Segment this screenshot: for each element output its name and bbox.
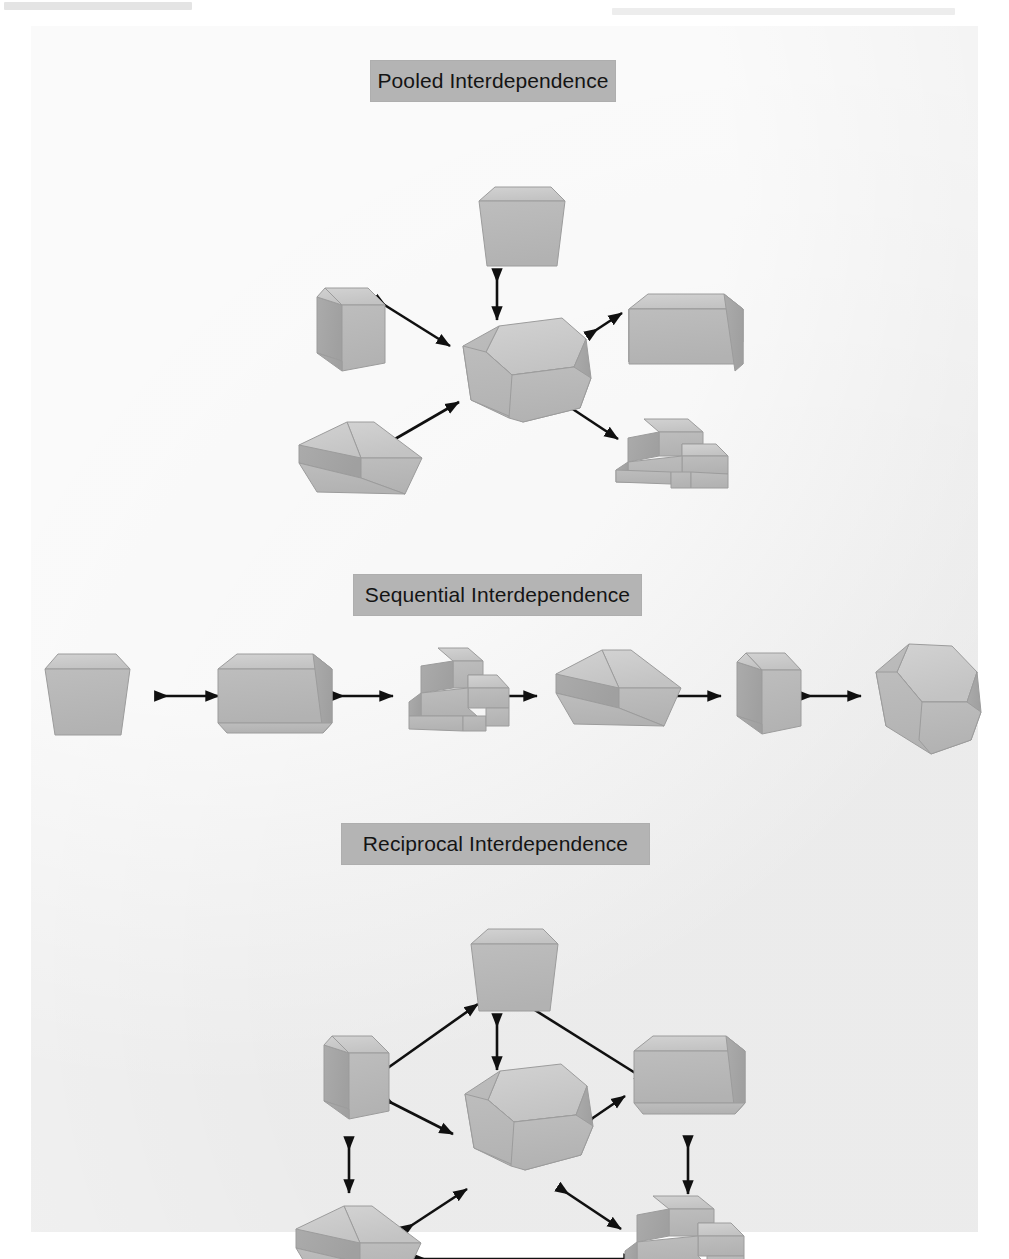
shape-tapered-block[interactable] <box>471 929 558 1011</box>
shape-large-cube[interactable] <box>634 1036 745 1114</box>
shape-chamfered-cube[interactable] <box>324 1036 389 1119</box>
shape-chamfered-cube[interactable] <box>737 653 801 734</box>
arrow-left-to-hub <box>375 299 450 346</box>
shape-hexagonal-prism-hub[interactable] <box>465 1064 593 1170</box>
scanned-page: Pooled Interdependence <box>0 0 1009 1259</box>
shape-wedge-block[interactable] <box>556 650 681 726</box>
arrow-left-to-top <box>375 1004 478 1077</box>
arrow-left-to-hub <box>382 1098 453 1134</box>
shape-stepped-block[interactable] <box>409 648 509 731</box>
shape-large-cube[interactable] <box>629 294 743 371</box>
pooled-diagram-canvas <box>31 26 978 526</box>
bleed-through-heading <box>4 2 192 10</box>
arrow-botleft-to-hub <box>403 1189 467 1231</box>
shape-hexagonal-prism[interactable] <box>876 644 981 754</box>
arrow-botright-to-hub <box>558 1187 621 1229</box>
arrow-right-to-hub <box>587 313 622 336</box>
shape-hexagonal-prism-hub[interactable] <box>463 318 591 422</box>
shape-tapered-block[interactable] <box>479 187 565 266</box>
section-reciprocal-interdependence: Reciprocal Interdependence <box>31 781 978 1232</box>
shape-stepped-block[interactable] <box>616 419 728 488</box>
shape-stepped-block[interactable] <box>625 1196 744 1259</box>
reciprocal-diagram-canvas <box>31 781 978 1232</box>
section-sequential-interdependence: Sequential Interdependence <box>31 526 978 781</box>
shape-large-cube[interactable] <box>218 654 332 733</box>
section-pooled-interdependence: Pooled Interdependence <box>31 26 978 526</box>
shape-tapered-block[interactable] <box>45 654 130 735</box>
figure-panel: Pooled Interdependence <box>31 26 978 1232</box>
shape-chamfered-cube[interactable] <box>317 288 385 371</box>
shape-wedge-block[interactable] <box>296 1206 421 1259</box>
sequential-diagram-canvas <box>31 526 978 781</box>
